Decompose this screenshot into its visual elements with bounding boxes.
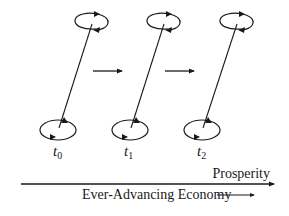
time-step-t2: t2 xyxy=(184,11,253,161)
time-label-t2: t2 xyxy=(197,143,206,161)
top-rotation-icon xyxy=(220,11,253,33)
time-step-t0: t0 xyxy=(40,11,108,161)
bottom-rotation-icon xyxy=(184,117,220,140)
bottom-rotation-icon xyxy=(112,117,148,140)
time-label-t1: t1 xyxy=(124,143,133,161)
top-rotation-icon xyxy=(147,11,180,33)
top-rotation-icon xyxy=(75,11,108,33)
time-step-t1: t1 xyxy=(112,11,180,161)
cycle-axis-line xyxy=(131,24,164,128)
time-label-t0: t0 xyxy=(53,143,62,161)
economy-cycle-diagram: t0 t1 t2 xyxy=(0,0,289,216)
cycle-axis-line xyxy=(203,24,237,128)
prosperity-label: Prosperity xyxy=(212,166,270,181)
bottom-rotation-icon xyxy=(40,117,76,140)
cycle-axis-line xyxy=(59,24,92,128)
economy-label: Ever-Advancing Economy xyxy=(82,187,231,202)
